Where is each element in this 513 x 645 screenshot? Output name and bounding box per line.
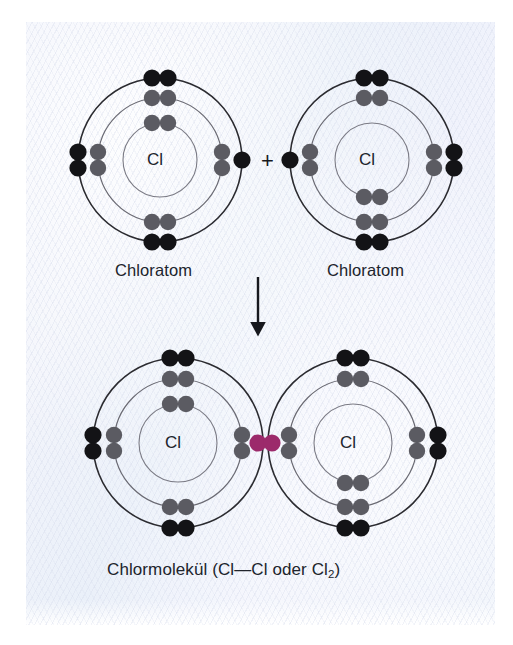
plus-sign: + <box>261 148 274 174</box>
figure-page: Cl Cl + Chloratom Chloratom Cl Cl Chlorm… <box>0 0 513 645</box>
inner-electron-pair-top <box>162 396 194 412</box>
caption-prefix: Chlormolekül (Cl—Cl oder Cl <box>107 560 328 579</box>
outer-electron-pair-left <box>69 143 86 176</box>
outer-electron-pair-bottom <box>336 519 369 536</box>
middle-electron-pair-left <box>302 144 318 176</box>
outer-electron-pair-top <box>355 69 388 86</box>
bottom-right-chlorine-atom <box>268 349 447 536</box>
outer-electron-pair-top <box>336 349 369 366</box>
middle-electron-pair-right <box>409 427 425 459</box>
chlorine-bonding-diagram <box>0 0 513 645</box>
molecule-caption: Chlormolekül (Cl—Cl oder Cl2) <box>107 560 340 580</box>
middle-electron-pair-right <box>426 144 442 176</box>
middle-electron-pair-top <box>162 371 194 387</box>
middle-electron-pair-right <box>234 427 250 459</box>
middle-electron-pair-left <box>90 144 106 176</box>
middle-electron-pair-top <box>337 371 369 387</box>
inner-electron-pair-top <box>144 115 176 131</box>
top-right-atom-label: Chloratom <box>327 261 404 280</box>
top-left-nucleus-label: Cl <box>147 150 163 170</box>
outer-electron-pair-top <box>143 69 176 86</box>
outer-unpaired-electron-left <box>281 151 298 168</box>
outer-unpaired-electron-right <box>233 151 250 168</box>
middle-electron-pair-bottom <box>162 499 194 515</box>
middle-electron-pair-right <box>214 144 230 176</box>
caption-suffix: ) <box>334 560 340 579</box>
outer-electron-pair-right <box>429 426 446 459</box>
middle-electron-pair-bottom <box>144 214 176 230</box>
outer-electron-pair-bottom <box>161 519 194 536</box>
inner-electron-pair-bottom <box>337 475 369 491</box>
outer-electron-pair-bottom <box>355 233 388 250</box>
outer-electron-pair-left <box>84 426 101 459</box>
middle-electron-pair-left <box>281 427 297 459</box>
middle-electron-pair-top <box>356 90 388 106</box>
bottom-right-nucleus-label: Cl <box>340 433 356 453</box>
middle-electron-pair-top <box>144 90 176 106</box>
top-left-atom-label: Chloratom <box>115 261 192 280</box>
middle-electron-pair-left <box>106 427 122 459</box>
middle-electron-pair-bottom <box>356 214 388 230</box>
shared-electron-pair <box>249 434 280 451</box>
top-right-nucleus-label: Cl <box>359 150 375 170</box>
outer-electron-pair-right <box>445 143 462 176</box>
bottom-left-nucleus-label: Cl <box>165 433 181 453</box>
outer-electron-pair-bottom <box>143 233 176 250</box>
middle-electron-pair-bottom <box>337 499 369 515</box>
outer-electron-pair-top <box>161 349 194 366</box>
inner-electron-pair-bottom <box>356 189 388 205</box>
